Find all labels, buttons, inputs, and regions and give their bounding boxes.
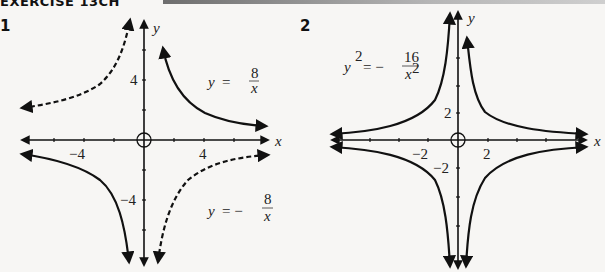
svg-text:2: 2: [355, 48, 363, 64]
g1-curve-8-over-x-q3: [22, 154, 129, 262]
g2-y-axis-label: y: [466, 10, 475, 26]
g1-xtick-neg4: −4: [69, 146, 85, 162]
svg-text:x: x: [263, 208, 271, 224]
svg-text:8: 8: [264, 191, 272, 207]
svg-text:= −: = −: [222, 203, 243, 219]
g2-equation: y 2 = − 16 x 2: [342, 48, 420, 82]
svg-text:= −: = −: [363, 59, 384, 75]
g1-ytick-4: 4: [130, 72, 138, 88]
g1-ytick-neg4: −4: [120, 192, 136, 208]
g1-y-axis-label: y: [151, 20, 160, 36]
svg-text:=: =: [222, 74, 230, 90]
g2-ytick-neg2: −2: [433, 160, 449, 176]
svg-text:y: y: [342, 59, 351, 75]
svg-text:2: 2: [412, 60, 420, 76]
svg-text:x: x: [250, 80, 258, 96]
svg-text:x: x: [404, 66, 412, 82]
graph-2: y x −2 2 2 −2 y 2 = − 16 x 2: [332, 10, 601, 268]
g2-xtick-2: 2: [483, 146, 491, 162]
g2-curve-q1: [467, 38, 586, 134]
svg-text:y: y: [206, 203, 215, 219]
graph-1: y x −4 4 4 −4 y = 8 x y = − 8 x: [22, 20, 282, 265]
g1-equation-neg8-over-x: y = − 8 x: [206, 191, 273, 224]
g1-equation-8-over-x: y = 8 x: [206, 65, 259, 96]
svg-text:y: y: [206, 74, 215, 90]
svg-text:8: 8: [251, 65, 259, 81]
g1-x-axis-label: x: [274, 133, 282, 149]
graphs-canvas: y x −4 4 4 −4 y = 8 x y = − 8 x: [0, 0, 605, 272]
g1-curve-neg8-over-x-q2: [22, 20, 130, 108]
g1-xtick-4: 4: [199, 146, 207, 162]
g2-ytick-2: 2: [444, 105, 452, 121]
g2-xtick-neg2: −2: [412, 146, 428, 162]
g2-curve-q4: [466, 147, 586, 266]
g2-x-axis-label: x: [593, 133, 601, 149]
